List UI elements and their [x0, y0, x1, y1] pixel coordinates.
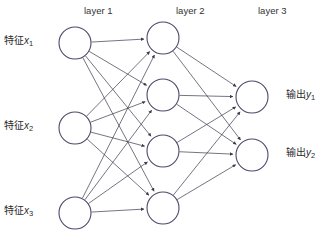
neuron-node-l1n1[interactable]	[59, 27, 91, 59]
network-graph-canvas	[0, 0, 320, 240]
layer-title-1: layer 1	[84, 6, 113, 16]
input-feature-label-subscript: 1	[29, 39, 33, 48]
output-label-subscript: 1	[311, 93, 315, 102]
neuron-node-l3n2[interactable]	[236, 139, 268, 171]
connection-edge	[180, 95, 234, 96]
layer-title-3: layer 3	[258, 6, 287, 16]
input-feature-label-2: 特征x2	[4, 121, 33, 132]
neuron-node-l2n2[interactable]	[147, 79, 179, 111]
connection-edge	[91, 132, 145, 146]
neuron-node-l2n3[interactable]	[147, 135, 179, 167]
connection-edge	[89, 51, 146, 85]
output-label-2: 输出y2	[286, 148, 315, 159]
connection-edge	[91, 39, 144, 42]
neuron-node-l3n1[interactable]	[236, 81, 268, 113]
neural-network-diagram: layer 1layer 2layer 3特征x1特征x2特征x3输出y1输出y…	[0, 0, 320, 240]
connection-edge	[177, 107, 236, 143]
neuron-node-l1n3[interactable]	[59, 197, 91, 229]
neuron-node-l1n2[interactable]	[59, 112, 91, 144]
neuron-node-l2n4[interactable]	[147, 192, 179, 224]
node-layer	[59, 22, 268, 229]
input-feature-label-prefix: 特征	[4, 120, 24, 131]
input-feature-label-1: 特征x1	[4, 36, 33, 47]
output-label-prefix: 输出	[286, 89, 306, 100]
output-label-subscript: 2	[311, 151, 315, 160]
output-label-prefix: 输出	[286, 147, 306, 158]
input-feature-label-subscript: 2	[29, 124, 33, 133]
input-feature-label-3: 特征x3	[4, 206, 33, 217]
connection-edge	[177, 165, 236, 200]
layer-title-2: layer 2	[176, 6, 205, 16]
edge-layer	[82, 39, 240, 212]
connection-edge	[177, 47, 236, 86]
neuron-node-l2n1[interactable]	[147, 22, 179, 54]
output-label-1: 输出y1	[286, 90, 315, 101]
input-feature-label-subscript: 3	[29, 209, 33, 218]
input-feature-label-prefix: 特征	[4, 205, 24, 216]
input-feature-label-prefix: 特征	[4, 35, 24, 46]
connection-edge	[91, 209, 144, 212]
